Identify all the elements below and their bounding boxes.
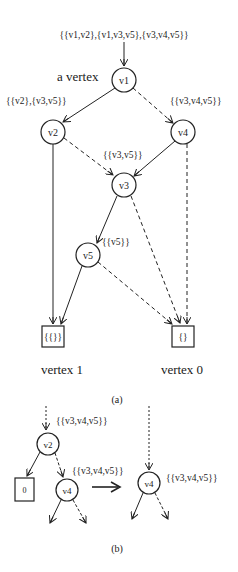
vertex-1-caption: vertex 1 xyxy=(41,362,83,377)
node-v1-label: v1 xyxy=(119,75,129,86)
terminal-one-label: {{}} xyxy=(44,332,62,342)
b-node-v4-right: v4 xyxy=(138,472,160,494)
edge-v5-one-solid xyxy=(61,266,82,324)
node-v5: v5 xyxy=(76,243,100,267)
b-node-v4-left-label: v4 xyxy=(63,486,73,496)
b-left-v4-dashed-out xyxy=(73,500,86,523)
edge-label-v3-v5: {{v5}} xyxy=(102,237,130,247)
b-node-v4-right-label: v4 xyxy=(145,479,155,489)
vertex-0-caption: vertex 0 xyxy=(161,362,203,377)
caption-a: (a) xyxy=(111,394,122,406)
edge-v5-zero-dashed xyxy=(98,262,172,324)
node-v4-label: v4 xyxy=(178,127,188,138)
node-v3: v3 xyxy=(112,173,136,197)
b-edge-v2-zero xyxy=(27,452,40,476)
node-v2-label: v2 xyxy=(48,127,58,138)
b-terminal-zero-label: 0 xyxy=(23,486,27,495)
node-v4: v4 xyxy=(171,120,195,144)
edge-v3-zero-dashed xyxy=(131,196,180,323)
terminal-zero-label: {} xyxy=(178,332,187,342)
a-vertex-annotation: a vertex xyxy=(57,69,99,84)
edge-label-v1-v4: {{v3,v4,v5}} xyxy=(170,96,222,106)
input-family-label: {{v1,v2},{v1,v3,v5},{v3,v4,v5}} xyxy=(59,30,188,40)
terminal-zero: {} xyxy=(172,326,194,347)
terminal-one: {{}} xyxy=(42,326,64,347)
edge-v3-v5-solid xyxy=(97,196,117,243)
node-v3-label: v3 xyxy=(119,180,129,191)
edge-label-to-v3: {{v3,v5}} xyxy=(103,150,143,160)
transform-arrow-icon xyxy=(92,482,120,492)
b-right-v4-label: {{v3,v4,v5}} xyxy=(166,473,218,483)
node-v2: v2 xyxy=(41,120,65,144)
edge-v1-v4-dashed xyxy=(133,88,173,123)
node-v5-label: v5 xyxy=(83,250,93,261)
b-top-label: {{v3,v4,v5}} xyxy=(56,416,108,426)
node-v1: v1 xyxy=(112,68,136,92)
b-node-v2: v2 xyxy=(37,433,59,455)
b-left-v4-label: {{v3,v4,v5}} xyxy=(72,466,124,476)
b-right-v4-dashed-out xyxy=(155,493,168,519)
b-right-v4-solid-out xyxy=(132,493,143,519)
b-node-v4-left: v4 xyxy=(56,479,78,501)
b-node-v2-label: v2 xyxy=(44,440,53,450)
edge-label-v1-v2: {{v2},{v3,v5}} xyxy=(6,96,67,106)
b-edge-v2-v4 xyxy=(55,453,63,477)
caption-b: (b) xyxy=(111,543,123,555)
b-left-v4-solid-out xyxy=(50,500,61,523)
edge-v1-v2-solid xyxy=(63,88,115,122)
b-terminal-zero: 0 xyxy=(15,478,34,501)
zdd-diagram: {{v1,v2},{v1,v3,v5},{v3,v4,v5}} a vertex… xyxy=(0,0,238,572)
